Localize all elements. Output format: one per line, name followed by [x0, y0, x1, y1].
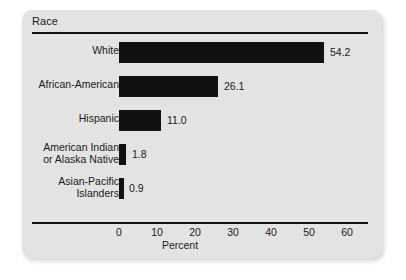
bar-white [119, 42, 324, 63]
bar-row: American Indian or Alaska Native 1.8 [22, 142, 382, 176]
bar-category-label: African-American [0, 79, 119, 91]
x-tick-label-20: 20 [180, 226, 210, 238]
bar-category-label: Hispanic [0, 113, 119, 125]
bar-row: Hispanic 11.0 [22, 108, 382, 142]
x-axis-title-container: Percent [22, 239, 382, 251]
bar-value-label: 11.0 [167, 114, 187, 126]
bar-african-american [119, 76, 218, 97]
x-tick-label-60: 60 [332, 226, 362, 238]
bar-value-label: 0.9 [129, 182, 144, 194]
bar-american-indian-alaska-native [119, 144, 126, 165]
x-tick-label-50: 50 [294, 226, 324, 238]
bar-hispanic [119, 110, 161, 131]
bar-row: African-American 26.1 [22, 74, 382, 108]
bar-row: White 54.2 [22, 40, 382, 74]
x-tick-label-0: 0 [104, 226, 134, 238]
x-axis-title: Percent [162, 239, 198, 251]
x-tick-label-10: 10 [142, 226, 172, 238]
figure: Race White 54.2 African-American 26.1 Hi… [0, 0, 406, 280]
bar-value-label: 54.2 [330, 46, 350, 58]
bar-value-label: 26.1 [224, 80, 244, 92]
bar-asian-pacific-islanders [119, 178, 124, 199]
bar-row: Asian-Pacific Islanders 0.9 [22, 176, 382, 210]
x-tick-label-40: 40 [256, 226, 286, 238]
bar-category-label: White [0, 45, 119, 57]
x-axis-line [32, 222, 368, 224]
x-tick-label-30: 30 [218, 226, 248, 238]
bar-category-label: American Indian or Alaska Native [0, 142, 119, 165]
plot-area: White 54.2 African-American 26.1 Hispani… [22, 40, 382, 226]
bar-category-label: Asian-Pacific Islanders [0, 176, 119, 199]
title-rule [32, 32, 368, 34]
chart-panel: Race White 54.2 African-American 26.1 Hi… [22, 10, 382, 258]
bar-value-label: 1.8 [132, 148, 147, 160]
chart-panel-inner: Race White 54.2 African-American 26.1 Hi… [22, 10, 382, 258]
chart-title: Race [32, 15, 58, 27]
